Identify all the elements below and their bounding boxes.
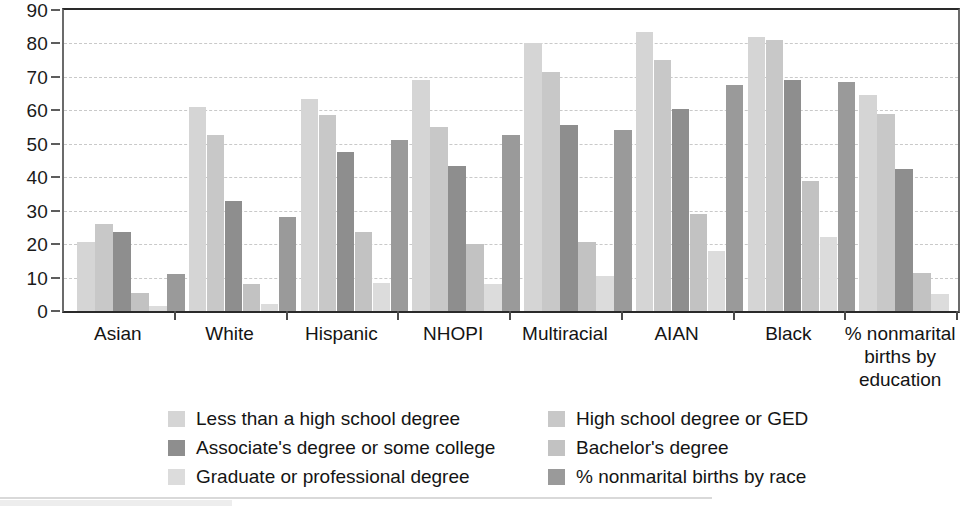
bar [355,232,373,311]
x-tick-mark [621,311,623,320]
y-tick-mark [51,76,60,78]
bar [466,244,484,311]
x-axis-label: NHOPI [397,322,509,345]
x-tick-mark [844,311,846,320]
legend-item[interactable]: % nonmarital births by race [548,462,808,491]
legend-label: Associate's degree or some college [196,437,495,459]
legend-swatch-icon [168,469,185,485]
bar [766,40,784,311]
legend-column: Less than a high school degreeAssociate'… [168,404,495,491]
bar [802,181,820,311]
bar [261,304,279,311]
y-tick-mark [51,109,60,111]
legend-item[interactable]: Associate's degree or some college [168,433,495,462]
y-tick-label: 50 [26,134,48,153]
legend: Less than a high school degreeAssociate'… [0,404,970,496]
bar [913,273,931,311]
y-tick-label: 70 [26,67,48,86]
legend-label: Less than a high school degree [196,408,460,430]
bar-group [511,10,623,311]
bar [113,232,131,311]
legend-item[interactable]: Graduate or professional degree [168,462,495,491]
bar-group [735,10,847,311]
x-axis-label: Hispanic [286,322,398,345]
bar-chart: 0102030405060708090 AsianWhiteHispanicNH… [0,0,970,506]
x-tick-mark [509,311,511,320]
bar [243,284,261,311]
legend-column: High school degree or GEDBachelor's degr… [548,404,808,491]
bar [560,125,578,311]
y-tick-mark [51,143,60,145]
bar [596,276,614,311]
y-tick-mark [51,277,60,279]
legend-swatch-icon [548,469,565,485]
legend-item[interactable]: Less than a high school degree [168,404,495,433]
bar [301,99,319,311]
bars-layer [64,10,958,311]
y-tick-label: 0 [37,302,48,321]
y-tick-mark [51,243,60,245]
x-tick-mark [397,311,399,320]
bar [690,214,708,311]
bar [189,107,207,311]
bar [524,43,542,311]
y-tick-label: 90 [26,1,48,20]
bar [708,251,726,311]
bar-group [64,10,176,311]
bar [654,60,672,311]
bar [748,37,766,311]
y-tick-label: 30 [26,201,48,220]
y-tick-mark [51,310,60,312]
y-tick-mark [51,176,60,178]
bar [672,109,690,311]
legend-swatch-icon [168,440,185,456]
x-axis-label: AIAN [621,322,733,345]
bar-group [846,10,958,311]
bar [448,166,466,311]
bar [895,169,913,311]
bar [207,135,225,311]
legend-label: Bachelor's degree [576,437,729,459]
x-tick-mark [956,311,958,320]
y-tick-label: 80 [26,34,48,53]
y-tick-label: 40 [26,168,48,187]
bar [225,201,243,311]
y-tick-label: 20 [26,235,48,254]
bar [430,127,448,311]
y-tick-label: 10 [26,268,48,287]
bar [877,114,895,311]
y-tick-label: 60 [26,101,48,120]
x-axis-ticks [62,311,960,321]
x-axis-label: Black [733,322,845,345]
legend-swatch-icon [548,440,565,456]
bar [542,72,560,311]
x-axis-label: Multiracial [509,322,621,345]
y-tick-mark [51,9,60,11]
x-axis-label: Asian [62,322,174,345]
bar [131,293,149,311]
bar-group [623,10,735,311]
bar [484,284,502,311]
bar [784,80,802,311]
bar [95,224,113,311]
legend-label: Graduate or professional degree [196,466,470,488]
x-tick-mark [174,311,176,320]
legend-item[interactable]: Bachelor's degree [548,433,808,462]
legend-swatch-icon [548,411,565,427]
bar-group [399,10,511,311]
bar-group [176,10,288,311]
y-tick-mark [51,42,60,44]
x-tick-mark [286,311,288,320]
y-axis: 0102030405060708090 [0,0,62,313]
bar [77,242,95,311]
bar [319,115,337,311]
legend-item[interactable]: High school degree or GED [548,404,808,433]
bar [578,242,596,311]
legend-swatch-icon [168,411,185,427]
bar-group [288,10,400,311]
legend-label: High school degree or GED [576,408,808,430]
x-axis-label: White [174,322,286,345]
bar [636,32,654,311]
bar [859,95,877,311]
bar [820,237,838,311]
